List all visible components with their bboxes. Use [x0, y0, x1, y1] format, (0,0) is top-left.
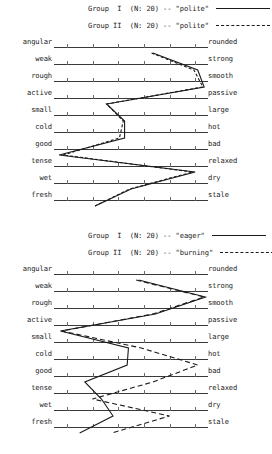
scale-tick: [195, 339, 196, 343]
legend-label: Group I (N: 20) -- "polite": [88, 0, 209, 17]
scale-tick: [170, 95, 171, 99]
scale-tick: [67, 129, 68, 133]
scale-right-label: smooth: [208, 295, 272, 310]
scale-tick: [67, 271, 68, 275]
scale-axis-line: [54, 115, 208, 116]
scale-tick: [170, 146, 171, 150]
scale-tick: [144, 44, 145, 48]
scale-tick: [144, 288, 145, 292]
scale-tick: [67, 424, 68, 428]
scale-tick: [144, 197, 145, 201]
scale-tick: [67, 305, 68, 309]
scale-tick: [118, 197, 119, 201]
scale-tick: [144, 356, 145, 360]
scale-tick: [67, 288, 68, 292]
scale-row: freshstale: [0, 187, 272, 204]
scale-row: smalllarge: [0, 329, 272, 346]
scale-tick: [170, 129, 171, 133]
scale-tick: [144, 61, 145, 65]
scale-tick: [170, 163, 171, 167]
scale-tick: [67, 407, 68, 411]
scale-tick: [93, 61, 94, 65]
chart-2-legend: Group I (N: 20) -- "eager" Group II (N: …: [0, 227, 272, 261]
scale-left-label: tense: [0, 153, 52, 168]
legend-line-sample-solid: [216, 8, 270, 10]
scale-tick: [118, 373, 119, 377]
scale-tick: [144, 95, 145, 99]
scale-tick: [195, 146, 196, 150]
scale-axis-line: [54, 81, 208, 82]
scale-tick: [118, 129, 119, 133]
scale-right-label: bad: [208, 136, 272, 151]
scale-left-label: fresh: [0, 187, 52, 202]
scale-right-label: large: [208, 102, 272, 117]
scale-tick: [67, 180, 68, 184]
scale-tick: [93, 288, 94, 292]
scale-tick: [170, 112, 171, 116]
scale-tick: [118, 95, 119, 99]
scale-tick: [118, 78, 119, 82]
scale-tick: [144, 305, 145, 309]
scale-tick: [144, 78, 145, 82]
scale-right-label: passive: [208, 312, 272, 327]
scale-tick: [93, 112, 94, 116]
scale-tick: [93, 390, 94, 394]
scale-tick: [67, 112, 68, 116]
scale-row: smalllarge: [0, 102, 272, 119]
legend-label: Group I (N: 20) -- "eager": [88, 227, 205, 244]
scale-tick: [144, 390, 145, 394]
scale-tick: [93, 146, 94, 150]
scale-tick: [144, 180, 145, 184]
scale-axis-line: [54, 183, 208, 184]
scale-left-label: active: [0, 85, 52, 100]
scale-tick: [118, 271, 119, 275]
scale-left-label: weak: [0, 278, 52, 293]
scale-right-label: relaxed: [208, 380, 272, 395]
scale-tick: [93, 407, 94, 411]
scale-tick: [67, 197, 68, 201]
scale-left-label: good: [0, 363, 52, 378]
profile-chart-eager-burning: Group I (N: 20) -- "eager" Group II (N: …: [0, 227, 272, 454]
scale-axis-line: [54, 308, 208, 309]
scale-right-label: strong: [208, 278, 272, 293]
scale-axis-line: [54, 132, 208, 133]
legend-label: Group II (N: 20) -- "burning": [88, 244, 213, 261]
scale-tick: [93, 305, 94, 309]
scale-axis-line: [54, 376, 208, 377]
scale-tick: [195, 129, 196, 133]
chart-2-scales: angularroundedweakstrongroughsmoothactiv…: [0, 261, 272, 431]
scale-tick: [144, 271, 145, 275]
scale-left-label: angular: [0, 261, 52, 276]
scale-tick: [170, 356, 171, 360]
scale-row: goodbad: [0, 363, 272, 380]
scale-tick: [195, 271, 196, 275]
scale-right-label: stale: [208, 187, 272, 202]
scale-right-label: large: [208, 329, 272, 344]
legend-entry: Group II (N: 20) -- "polite": [0, 17, 272, 34]
scale-tick: [67, 339, 68, 343]
scale-tick: [93, 44, 94, 48]
scale-tick: [67, 61, 68, 65]
chart-1-scales: angularroundedweakstrongroughsmoothactiv…: [0, 34, 272, 204]
scale-tick: [67, 95, 68, 99]
scale-axis-line: [54, 325, 208, 326]
legend-line-sample-dashed: [220, 252, 272, 253]
scale-left-label: wet: [0, 170, 52, 185]
scale-row: goodbad: [0, 136, 272, 153]
scale-tick: [144, 129, 145, 133]
scale-row: activepassive: [0, 85, 272, 102]
scale-axis-line: [54, 98, 208, 99]
scale-row: activepassive: [0, 312, 272, 329]
legend-line-sample-solid: [212, 235, 266, 237]
scale-right-label: rounded: [208, 34, 272, 49]
scale-axis-line: [54, 47, 208, 48]
scale-tick: [195, 44, 196, 48]
scale-axis-line: [54, 166, 208, 167]
scale-tick: [170, 180, 171, 184]
scale-left-label: small: [0, 329, 52, 344]
scale-tick: [195, 390, 196, 394]
scale-right-label: dry: [208, 397, 272, 412]
scale-tick: [144, 407, 145, 411]
scale-tick: [93, 163, 94, 167]
scale-tick: [118, 305, 119, 309]
